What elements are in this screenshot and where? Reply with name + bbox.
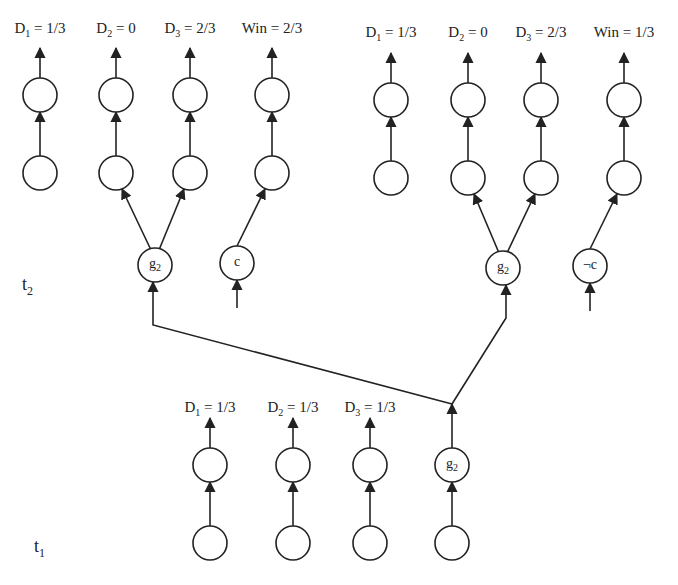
left-col-2-bottom-node (99, 156, 133, 190)
bottom-col-2-top-node (276, 448, 310, 482)
right-col-3-bottom-node (524, 161, 558, 195)
bottom-col-1-top-node (193, 448, 227, 482)
bottom-col-3-top-node (353, 448, 387, 482)
left-c-node: c (220, 246, 254, 280)
right-col-1-output-label: D1 = 1/3 (366, 24, 417, 43)
bottom-g2-node: g2 (435, 448, 469, 482)
right-col-4-top-node (607, 83, 641, 117)
right-col-1-bottom-node (374, 161, 408, 195)
node-label: c (234, 254, 240, 269)
left-g2-to-d3-arrow (159, 189, 184, 250)
branch-to-left-g2 (153, 282, 452, 404)
left-col-3-top-node (173, 78, 207, 112)
bottom-col-2-output-label: D2 = 1/3 (268, 399, 319, 418)
left-col-4-bottom-node (255, 156, 289, 190)
left-col-3-output-label: D3 = 2/3 (165, 20, 216, 39)
left-c-to-win-arrow (237, 189, 265, 246)
left-col-1-bottom-node (23, 156, 57, 190)
right-col-1-top-node (374, 83, 408, 117)
right-notc-node: ¬c (573, 249, 607, 283)
right-g2-to-d3-arrow (507, 194, 535, 253)
bottom-col-2-bottom-node (276, 526, 310, 560)
network-diagram: g2cg2¬cg2 D1 = 1/3D2 = 0D3 = 2/3Win = 2/… (0, 0, 678, 585)
right-col-2-top-node (451, 83, 485, 117)
right-g2-to-d2-arrow (474, 194, 499, 253)
left-col-4-top-node (255, 78, 289, 112)
bottom-col-1-output-label: D1 = 1/3 (185, 399, 236, 418)
time-label-t2: t2 (22, 274, 33, 298)
right-col-3-output-label: D3 = 2/3 (516, 24, 567, 43)
right-col-2-bottom-node (451, 161, 485, 195)
left-g2-node: g2 (138, 248, 172, 282)
branch-to-right-g2 (452, 285, 506, 404)
bottom-col-3-output-label: D3 = 1/3 (345, 399, 396, 418)
time-label-t1: t1 (34, 536, 45, 560)
left-col-4-output-label: Win = 2/3 (242, 20, 302, 36)
bottom-col-1-bottom-node (193, 526, 227, 560)
left-col-2-output-label: D2 = 0 (96, 20, 135, 39)
right-col-3-top-node (524, 83, 558, 117)
right-notc-to-win-arrow (590, 194, 617, 249)
left-col-1-output-label: D1 = 1/3 (15, 20, 66, 39)
right-g2-node: g2 (486, 251, 520, 285)
left-col-2-top-node (99, 78, 133, 112)
left-col-1-top-node (23, 78, 57, 112)
bottom-col-3-bottom-node (353, 526, 387, 560)
right-col-4-output-label: Win = 1/3 (594, 24, 654, 40)
bottom-col-4-bottom-node (435, 526, 469, 560)
right-col-2-output-label: D2 = 0 (448, 24, 487, 43)
node-label: ¬c (583, 257, 597, 272)
left-col-3-bottom-node (173, 156, 207, 190)
right-col-4-bottom-node (607, 161, 641, 195)
left-g2-to-d2-arrow (122, 189, 151, 250)
